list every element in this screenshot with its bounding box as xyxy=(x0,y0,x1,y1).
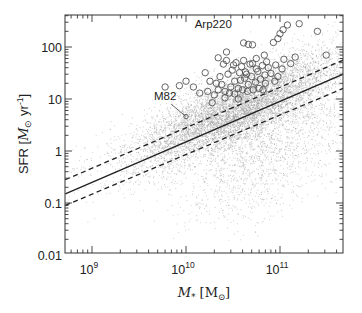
x-tick-labels: 10910101011 xyxy=(80,260,289,277)
starburst-galaxy-marker xyxy=(197,90,203,96)
starburst-galaxy-marker xyxy=(236,70,242,76)
starburst-galaxy-marker xyxy=(288,60,294,66)
annotation-arp220: Arp220 xyxy=(195,18,232,30)
starburst-galaxy-marker xyxy=(202,70,208,76)
starburst-galaxy-marker xyxy=(237,77,243,83)
starburst-galaxy-marker xyxy=(238,63,244,69)
scatter-bound-dashed-line xyxy=(65,88,343,205)
x-tick-label: 1010 xyxy=(171,260,195,277)
x-axis-title: M* [M⊙] xyxy=(177,285,230,302)
starburst-galaxy-marker xyxy=(215,55,221,61)
starburst-galaxy-marker xyxy=(314,28,320,34)
starburst-galaxy-marker xyxy=(323,52,329,58)
y-axis-title: SFR [M⊙ yr-1] xyxy=(15,94,33,174)
starburst-galaxy-marker xyxy=(265,65,271,71)
starburst-galaxy-marker xyxy=(190,84,196,90)
starburst-galaxy-marker xyxy=(243,71,249,77)
y-tick-label: 100 xyxy=(41,41,62,55)
galaxy-dots-layer xyxy=(66,22,344,277)
x-tick-label: 109 xyxy=(80,260,99,277)
starburst-galaxy-marker xyxy=(223,49,229,55)
starburst-galaxy-marker xyxy=(253,55,259,61)
starburst-galaxy-marker xyxy=(176,83,182,89)
sfr-mass-chart: Arp220M82 10910101011 1001010.10.01 M* [… xyxy=(0,0,362,313)
starburst-galaxy-marker xyxy=(261,52,267,58)
starburst-galaxy-marker xyxy=(259,62,265,68)
starburst-galaxy-marker xyxy=(284,22,290,28)
y-tick-label: 0.1 xyxy=(45,197,62,211)
galaxy-dots xyxy=(66,22,344,277)
y-tick-labels: 1001010.10.01 xyxy=(38,41,62,263)
starburst-galaxy-marker xyxy=(183,78,189,84)
x-tick-label: 1011 xyxy=(266,260,289,277)
y-tick-label: 1 xyxy=(55,145,62,159)
starburst-galaxy-marker xyxy=(296,21,302,27)
annotation-m82: M82 xyxy=(154,90,176,102)
y-tick-label: 0.01 xyxy=(38,249,62,263)
annotations-layer: Arp220M82 xyxy=(154,18,232,119)
y-tick-label: 10 xyxy=(48,93,62,107)
starburst-circles-layer xyxy=(162,21,329,106)
starburst-galaxy-marker xyxy=(225,71,231,77)
starburst-galaxy-marker xyxy=(281,56,287,62)
starburst-galaxy-marker xyxy=(240,57,246,63)
